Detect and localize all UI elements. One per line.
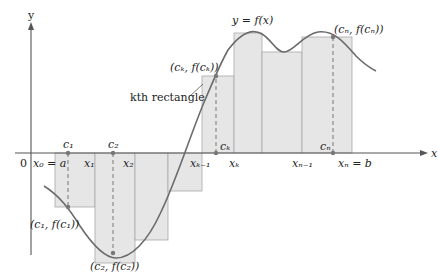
origin-label: 0 bbox=[20, 157, 27, 170]
y-axis-label: y bbox=[27, 9, 35, 22]
point-c2-axis bbox=[111, 151, 115, 155]
rectangle-7 bbox=[262, 52, 302, 153]
x0-label: x₀ = a bbox=[33, 157, 66, 170]
x-axis-arrow-icon bbox=[420, 150, 428, 156]
xn-1-label: xₙ₋₁ bbox=[292, 157, 313, 170]
curve-label: y = f(x) bbox=[231, 14, 273, 27]
point-c1-axis bbox=[66, 151, 70, 155]
c1-point-label: (c₁, f(c₁)) bbox=[30, 218, 79, 231]
y-axis-arrow-icon bbox=[28, 22, 34, 30]
x-axis-label: x bbox=[431, 147, 438, 160]
xk-1-label: xₖ₋₁ bbox=[190, 157, 210, 170]
kth-rectangle-annotation: kth rectangle bbox=[130, 91, 205, 104]
point-c1-curve bbox=[66, 205, 70, 209]
ck-label: cₖ bbox=[220, 140, 230, 153]
c1-label: c₁ bbox=[63, 138, 74, 151]
cn-point-label: (cₙ, f(cₙ)) bbox=[334, 23, 383, 36]
point-ck-curve bbox=[214, 74, 218, 78]
c2-label: c₂ bbox=[108, 138, 119, 151]
x1-label: x₁ bbox=[84, 157, 95, 170]
xn-label: xₙ = b bbox=[338, 157, 372, 170]
ck-point-label: (cₖ, f(cₖ)) bbox=[170, 61, 219, 74]
rectangle-n bbox=[302, 37, 352, 153]
rectangle-6 bbox=[234, 33, 262, 153]
cn-label: cₙ bbox=[320, 140, 331, 153]
c2-point-label: (c₂, f(c₂)) bbox=[90, 260, 139, 273]
x2-label: x₂ bbox=[123, 157, 134, 170]
point-c2-curve bbox=[111, 251, 115, 255]
xk-label: xₖ bbox=[229, 157, 239, 170]
riemann-sum-diagram: y x 0 y = f(x) x₀ = a x₁ x₂ xₖ₋₁ xₖ xₙ₋₁… bbox=[0, 0, 438, 276]
rectangle-3 bbox=[135, 153, 168, 240]
point-cn-axis bbox=[331, 151, 335, 155]
point-ck-axis bbox=[214, 151, 218, 155]
